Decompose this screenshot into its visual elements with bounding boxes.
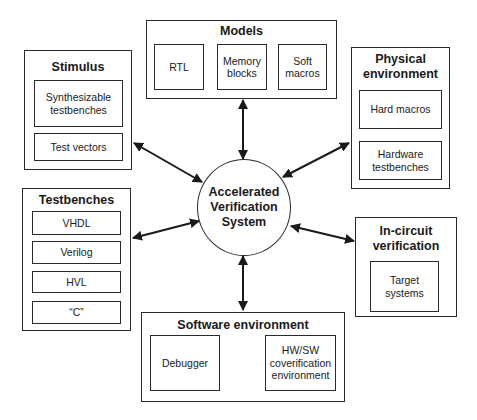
models-item-soft-macros: Soft macros — [278, 44, 327, 90]
testbenches-item-vhdl: VHDL — [32, 211, 121, 235]
arrow-physical — [283, 143, 349, 177]
in-circuit-verification-group: In-circuit verification Target systems — [355, 217, 457, 317]
physical-environment-title: Physical environment — [352, 52, 449, 82]
stimulus-item-synthesizable-testbenches: Synthesizable testbenches — [34, 80, 123, 127]
center-label: Accelerated Verification System — [209, 185, 280, 230]
software-environment-title: Software environment — [142, 318, 344, 332]
physical-item-hard-macros: Hard macros — [359, 90, 442, 129]
stimulus-group: Stimulus Synthesizable testbenches Test … — [24, 50, 132, 170]
models-item-memory-blocks: Memory blocks — [217, 44, 267, 90]
arrow-stimulus — [134, 143, 202, 182]
software-environment-group: Software environment Debugger HW/SW cove… — [141, 312, 345, 402]
incircuit-item-target-systems: Target systems — [370, 261, 439, 312]
stimulus-title: Stimulus — [25, 60, 131, 74]
models-item-rtl: RTL — [154, 44, 204, 90]
software-item-debugger: Debugger — [150, 335, 220, 391]
physical-item-hardware-testbenches: Hardware testbenches — [359, 141, 442, 180]
testbenches-title: Testbenches — [23, 193, 130, 207]
stimulus-item-test-vectors: Test vectors — [34, 133, 123, 161]
arrow-incircuit — [291, 226, 354, 241]
models-group: Models RTL Memory blocks Soft macros — [146, 20, 337, 99]
testbenches-item-verilog: Verilog — [32, 241, 121, 264]
software-item-hwsw-coverification: HW/SW coverification environment — [265, 335, 336, 391]
in-circuit-verification-title: In-circuit verification — [356, 224, 456, 254]
testbenches-item-hvl: HVL — [32, 271, 121, 293]
arrow-testbenches — [133, 221, 199, 238]
accelerated-verification-system: Accelerated Verification System — [197, 159, 291, 256]
testbenches-item-c: “C” — [32, 301, 121, 324]
testbenches-group: Testbenches VHDL Verilog HVL “C” — [22, 188, 131, 331]
physical-environment-group: Physical environment Hard macros Hardwar… — [351, 47, 450, 189]
models-title: Models — [147, 24, 336, 38]
